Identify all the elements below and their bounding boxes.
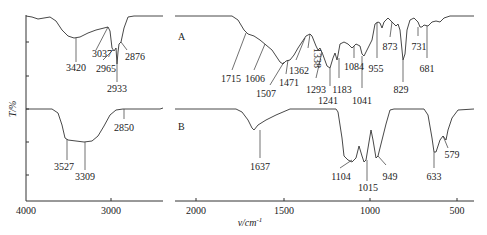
peak-label: 1183 — [332, 84, 352, 95]
x-tick-label: 1000 — [360, 205, 380, 216]
x-axis-title: v/cm-1 — [238, 216, 263, 228]
peak-label: 3309 — [75, 171, 95, 182]
peak-label: 955 — [369, 63, 384, 74]
peak-label: 873 — [383, 41, 398, 52]
ir-spectrum-chart: 4000 3000 2000 1500 1000 500 v/cm-1 T/% … — [0, 0, 487, 235]
peak-label: 731 — [412, 41, 427, 52]
series-label-a: A — [178, 31, 186, 42]
spectrum-b-line — [26, 108, 474, 162]
x-tick-labels: 4000 3000 2000 1500 1000 500 — [16, 205, 465, 216]
peak-label: 2965 — [96, 63, 116, 74]
peak-label: 2876 — [125, 51, 145, 62]
x-axis-title-sup: -1 — [257, 216, 263, 224]
x-tick-label: 3000 — [101, 205, 121, 216]
peak-label: 1084 — [344, 61, 364, 72]
peak-label: 633 — [427, 171, 442, 182]
peak-label: 1104 — [331, 171, 351, 182]
peak-label: 1015 — [358, 182, 378, 193]
peak-label: 1637 — [250, 161, 270, 172]
peak-label: 3527 — [54, 161, 74, 172]
peak-label: 579 — [445, 149, 460, 160]
peak-label: 2850 — [114, 122, 134, 133]
peak-labels-b: 3527 3309 2850 1637 1104 1015 949 633 57… — [54, 122, 460, 193]
peak-label: 1041 — [352, 95, 372, 106]
peak-label: 1241 — [318, 95, 338, 106]
peak-label: 1362 — [289, 65, 309, 76]
x-tick-label: 4000 — [16, 205, 36, 216]
peak-label: 3420 — [66, 62, 86, 73]
peak-label: 1338 — [312, 48, 323, 68]
x-tick-label: 2000 — [186, 205, 206, 216]
series-label-b: B — [178, 121, 185, 132]
peak-label: 1606 — [245, 73, 265, 84]
x-axis-title-text: v/cm — [238, 217, 257, 228]
peak-label: 2933 — [107, 83, 127, 94]
peak-label: 1471 — [279, 77, 299, 88]
peak-label: 829 — [394, 84, 409, 95]
x-tick-label: 500 — [450, 205, 465, 216]
x-tick-label: 1500 — [274, 205, 294, 216]
peak-label: 1715 — [221, 73, 241, 84]
peak-label: 1507 — [256, 88, 276, 99]
peak-label: 949 — [383, 171, 398, 182]
peak-labels-a: 3420 3037 2965 2933 2876 1715 1606 1507 … — [66, 41, 435, 106]
y-axis-title: T/% — [7, 101, 18, 118]
spectrum-a-line — [26, 16, 474, 68]
peak-label: 3037 — [92, 48, 112, 59]
peak-label: 1293 — [306, 84, 326, 95]
peak-label: 681 — [420, 63, 435, 74]
